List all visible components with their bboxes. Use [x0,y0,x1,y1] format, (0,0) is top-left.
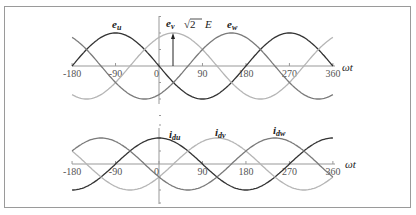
bottom-axis-label: ωt [345,158,357,170]
label-ev: ev [166,17,175,31]
waveform-diagram: -180-90090180270360 ev √2 E eu ew ωt -18… [0,0,416,215]
label-idu: idu [169,128,181,142]
tick-label: 360 [325,166,340,177]
annotation-sqrt2: √2 [184,18,196,30]
label-eu: eu [112,18,122,32]
tick-label: 180 [238,166,253,177]
tick-label: -180 [63,166,81,177]
tick-label: 360 [325,68,340,79]
label-ew: ew [227,18,238,32]
annotation-e: E [204,18,212,30]
tick-label: 270 [282,166,297,177]
label-idw: idw [273,124,286,138]
tick-label: 90 [197,68,207,79]
arrow-head-icon [171,33,175,39]
tick-label: 0 [154,68,159,79]
tick-label: -180 [63,68,81,79]
label-idv: idv [215,126,226,140]
top-plot: -180-90090180270360 ev √2 E eu ew ωt [63,16,354,116]
tick-label: 180 [238,68,253,79]
bottom-plot: -180-90090180270360 idu idv idw ωt [63,124,357,204]
top-axis-label: ωt [342,61,354,73]
